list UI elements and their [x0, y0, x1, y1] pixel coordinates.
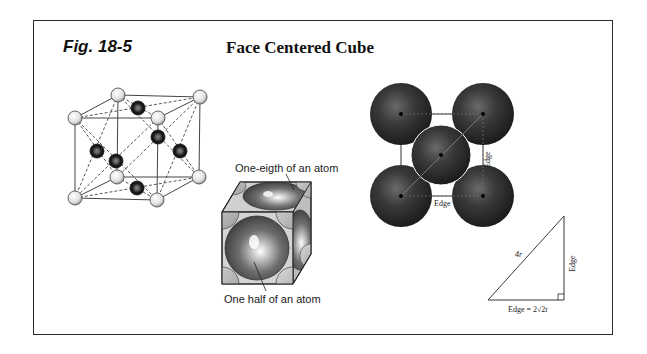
hypotenuse-label: 4r — [515, 250, 523, 259]
label-one-half: One half of an atom — [224, 293, 321, 305]
base-edge-label: Edge = 2√2r — [508, 305, 548, 314]
diagram-canvas: One-eigth of an atom One half of an atom… — [0, 0, 647, 354]
label-one-eighth: One-eigth of an atom — [235, 162, 338, 174]
edge-label-bottom: Edge — [434, 199, 451, 208]
edge-label-right: Edge — [483, 151, 492, 168]
fcc-lattice — [68, 88, 207, 207]
space-filling-cube — [205, 174, 324, 301]
vertical-edge-label: Edge — [568, 255, 577, 272]
right-triangle — [488, 216, 564, 300]
